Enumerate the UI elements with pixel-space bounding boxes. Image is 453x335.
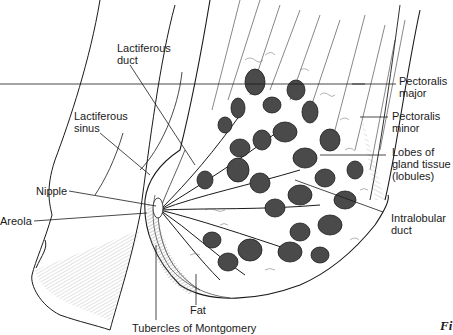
label-nipple: Nipple <box>36 185 67 197</box>
lobules <box>197 69 363 271</box>
breast-anatomy-diagram <box>0 0 453 335</box>
label-areola: Areola <box>0 215 32 227</box>
label-pectoralis-major: Pectoralis major <box>399 75 447 99</box>
label-intralobular-duct: Intralobular duct <box>391 212 446 236</box>
label-pectoralis-minor: Pectoralis minor <box>392 110 440 134</box>
label-lobes-of-gland-tissue: Lobes of gland tissue (lobules) <box>392 146 451 182</box>
figure-caption: Fi <box>440 318 452 334</box>
label-tubercles-of-montgomery: Tubercles of Montgomery <box>132 322 256 334</box>
label-lactiferous-sinus: Lactiferous sinus <box>74 110 128 134</box>
nipple-shape <box>153 198 163 218</box>
label-fat: Fat <box>190 304 206 316</box>
label-lactiferous-duct: Lactiferous duct <box>117 42 171 66</box>
